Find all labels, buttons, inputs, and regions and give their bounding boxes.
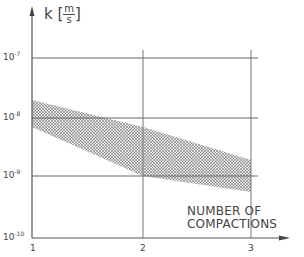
unit-fraction: ms [63, 4, 75, 25]
y-tick-1e-10: 10-10 [3, 231, 24, 242]
x-axis-label-line2: COMPACTIONS [187, 218, 277, 231]
x-tick-1: 1 [30, 244, 36, 253]
permeability-band [32, 100, 251, 192]
y-tick-1e-9: 10-9 [3, 169, 20, 180]
y-tick-1e-7: 10-7 [3, 51, 20, 62]
x-axis-label: NUMBER OF COMPACTIONS [187, 205, 277, 231]
x-axis-arrow [279, 236, 290, 241]
x-tick-2: 2 [140, 244, 146, 253]
x-tick-3: 3 [248, 244, 254, 253]
y-axis-arrow [30, 6, 35, 16]
y-tick-1e-8: 10-8 [3, 111, 20, 122]
y-axis-label: k [ms] [44, 4, 81, 25]
y-axis-symbol: k [44, 5, 53, 23]
unit-denominator: s [63, 15, 75, 25]
